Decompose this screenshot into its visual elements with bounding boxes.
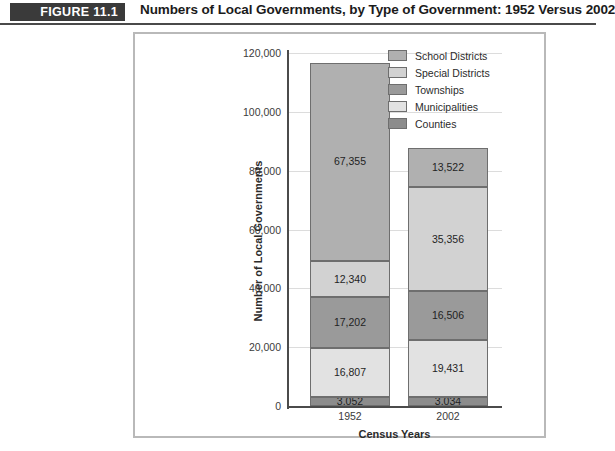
legend-label: Townships <box>415 84 464 96</box>
legend-swatch <box>388 101 407 112</box>
bar-segment: 67,355 <box>310 63 390 261</box>
y-axis-title: Number of Local Governments <box>252 141 264 341</box>
y-axis-tick-label: 0 <box>221 400 281 412</box>
chart-legend: School DistrictsSpecial DistrictsTownshi… <box>388 47 538 132</box>
legend-item: Municipalities <box>388 98 538 115</box>
legend-item: Townships <box>388 81 538 98</box>
bar-segment-value-label: 16,506 <box>432 310 464 321</box>
legend-swatch <box>388 50 407 61</box>
x-axis-title: Census Years <box>287 428 502 440</box>
legend-label: Counties <box>415 118 456 130</box>
legend-item: School Districts <box>388 47 538 64</box>
figure-number-badge: FIGURE 11.1 <box>10 3 125 21</box>
bar-segment-value-label: 19,431 <box>432 363 464 374</box>
legend-label: School Districts <box>415 50 487 62</box>
x-axis-tick-label: 2002 <box>408 410 488 422</box>
stacked-bar: 3,05216,80717,20212,34067,355 <box>310 53 390 406</box>
bar-segment-value-label: 3,034 <box>435 397 461 406</box>
legend-swatch <box>388 118 407 129</box>
legend-swatch <box>388 84 407 95</box>
bar-segment-value-label: 16,807 <box>334 367 366 378</box>
bar-segment-value-label: 3,052 <box>337 397 363 406</box>
bar-segment: 16,807 <box>310 348 390 397</box>
legend-swatch <box>388 67 407 78</box>
x-axis-tick-label: 1952 <box>310 410 390 422</box>
legend-item: Counties <box>388 115 538 132</box>
bar-segment: 35,356 <box>408 187 488 291</box>
legend-label: Special Districts <box>415 67 490 79</box>
figure-header: FIGURE 11.1 Numbers of Local Governments… <box>0 0 596 26</box>
bar-segment-value-label: 67,355 <box>334 156 366 167</box>
bar-segment: 19,431 <box>408 340 488 397</box>
bar-segment-value-label: 17,202 <box>334 317 366 328</box>
legend-item: Special Districts <box>388 64 538 81</box>
y-axis-line <box>287 50 289 409</box>
bar-segment: 16,506 <box>408 291 488 340</box>
bar-segment-value-label: 13,522 <box>432 162 464 173</box>
figure-title: Numbers of Local Governments, by Type of… <box>140 2 615 17</box>
bar-segment: 12,340 <box>310 261 390 297</box>
bar-segment: 3,052 <box>310 397 390 406</box>
bar-segment-value-label: 12,340 <box>334 274 366 285</box>
bar-segment-value-label: 35,356 <box>432 234 464 245</box>
bar-segment: 17,202 <box>310 297 390 348</box>
x-axis-line <box>287 406 502 408</box>
bar-segment: 3,034 <box>408 397 488 406</box>
header-divider <box>0 23 596 25</box>
y-axis-tick-label: 120,000 <box>221 47 281 59</box>
legend-label: Municipalities <box>415 101 478 113</box>
y-axis-title-wrapper: Number of Local Governments <box>218 60 238 360</box>
bar-segment: 13,522 <box>408 148 488 188</box>
